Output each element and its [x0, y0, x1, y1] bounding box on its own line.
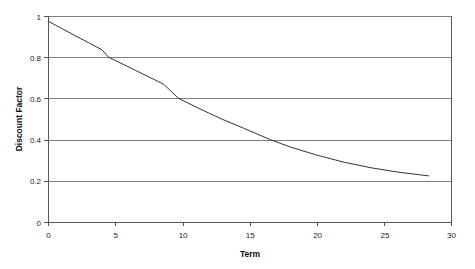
gridlines: [48, 17, 452, 182]
discount-factor-chart: 1 0.8 0.6 0.4 0.2 0 0 5 10 15 20 25 30 T…: [0, 0, 475, 269]
x-tick-labels: 0 5 10 15 20 25 30: [46, 231, 456, 240]
x-axis-title: Term: [240, 249, 261, 259]
x-tick-label-25: 25: [380, 231, 389, 240]
x-tick-label-5: 5: [114, 231, 119, 240]
y-tick-label-0_6: 0.6: [30, 95, 42, 104]
y-tick-label-0_8: 0.8: [30, 54, 42, 63]
x-tick-label-20: 20: [313, 231, 322, 240]
y-tick-marks: [44, 17, 48, 223]
y-tick-label-1: 1: [37, 13, 42, 22]
y-tick-labels: 1 0.8 0.6 0.4 0.2 0: [30, 13, 42, 228]
chart-svg: 1 0.8 0.6 0.4 0.2 0 0 5 10 15 20 25 30 T…: [0, 0, 475, 269]
x-tick-label-0: 0: [46, 231, 51, 240]
x-tick-label-30: 30: [447, 231, 456, 240]
x-tick-label-10: 10: [179, 231, 188, 240]
y-tick-label-0_2: 0.2: [30, 177, 42, 186]
y-axis-title: Discount Factor: [14, 86, 24, 151]
y-tick-label-0_4: 0.4: [30, 136, 42, 145]
x-tick-label-15: 15: [246, 231, 255, 240]
axes: [48, 16, 452, 223]
y-tick-label-0: 0: [37, 219, 42, 228]
